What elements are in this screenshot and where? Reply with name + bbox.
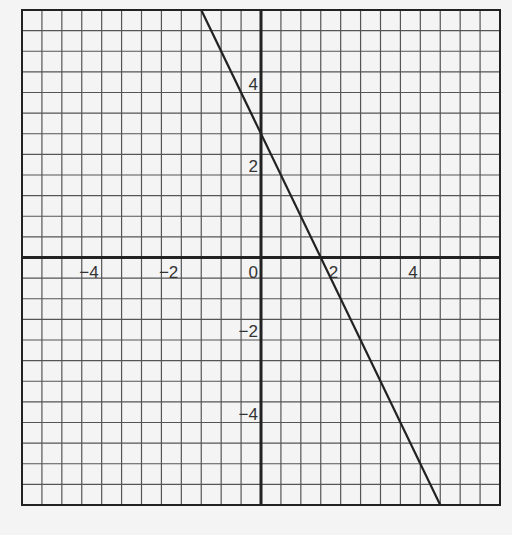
y-tick-label: −2 [239,322,258,341]
y-tick-label: 4 [249,75,258,94]
x-tick-label: −2 [159,263,178,282]
y-tick-label: −4 [239,405,258,424]
coordinate-plane: −4−202442−2−4 [0,0,512,535]
x-tick-label: 0 [249,263,258,282]
x-tick-label: 4 [408,263,417,282]
x-tick-label: −4 [79,263,98,282]
tick-labels: −4−202442−2−4 [79,75,418,424]
y-tick-label: 2 [249,157,258,176]
